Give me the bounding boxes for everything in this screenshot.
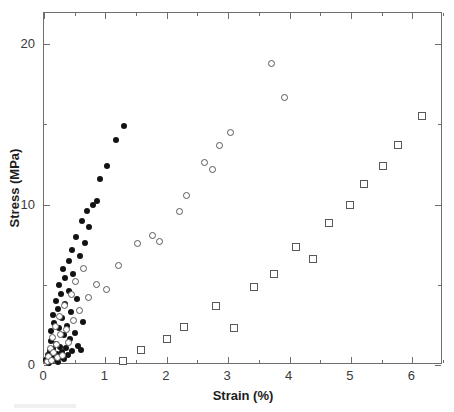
data-point-filled-circles — [66, 258, 72, 264]
y-axis-major-tick — [44, 205, 50, 206]
x-axis-top-minor-tick — [75, 13, 76, 16]
y-axis-right-major-tick — [435, 44, 441, 45]
data-point-filled-circles — [56, 282, 62, 288]
y-axis-right-major-tick — [435, 205, 441, 206]
y-axis-minor-tick — [44, 124, 47, 125]
data-point-filled-circles — [121, 123, 127, 129]
y-axis-tick-label: 10 — [21, 196, 35, 211]
x-axis-top-minor-tick — [320, 13, 321, 16]
x-axis-top-major-tick — [228, 13, 229, 19]
data-point-open-squares — [163, 335, 171, 343]
data-point-open-squares — [119, 357, 127, 365]
data-point-open-circles — [65, 339, 72, 346]
stress-strain-figure: 012345601020 Strain (%) Stress (MPa) — [0, 0, 454, 412]
x-axis-top-major-tick — [44, 13, 45, 19]
data-point-open-squares — [346, 201, 354, 209]
data-point-open-circles — [103, 286, 110, 293]
data-point-filled-circles — [94, 198, 100, 204]
data-point-filled-circles — [60, 266, 66, 272]
data-point-filled-circles — [79, 218, 85, 224]
y-axis-major-tick — [44, 44, 50, 45]
data-point-open-circles — [52, 323, 59, 330]
plot-area — [43, 12, 442, 364]
data-point-open-circles — [134, 240, 141, 247]
x-axis-minor-tick — [197, 360, 198, 363]
data-point-open-circles — [68, 291, 75, 298]
data-point-open-circles — [227, 129, 234, 136]
x-axis-major-tick — [167, 357, 168, 363]
x-axis-top-minor-tick — [382, 13, 383, 16]
data-point-open-squares — [360, 180, 368, 188]
x-axis-top-minor-tick — [443, 13, 444, 16]
data-point-open-circles — [70, 317, 77, 324]
x-axis-minor-tick — [443, 360, 444, 363]
data-point-filled-circles — [62, 275, 68, 281]
data-point-filled-circles — [78, 347, 84, 353]
data-point-open-circles — [281, 94, 288, 101]
data-point-open-circles — [115, 262, 122, 269]
data-point-open-circles — [61, 302, 68, 309]
x-axis-major-tick — [290, 357, 291, 363]
data-point-open-squares — [250, 283, 258, 291]
x-axis-top-minor-tick — [259, 13, 260, 16]
data-point-filled-circles — [50, 312, 56, 318]
y-axis-minor-tick — [44, 285, 47, 286]
data-point-open-squares — [180, 323, 188, 331]
scan-artifact — [14, 404, 76, 408]
data-point-open-squares — [137, 346, 145, 354]
x-axis-top-major-tick — [167, 13, 168, 19]
data-point-filled-circles — [86, 224, 92, 230]
x-axis-top-major-tick — [290, 13, 291, 19]
x-axis-top-minor-tick — [197, 13, 198, 16]
y-axis-right-minor-tick — [438, 124, 441, 125]
data-point-open-squares — [309, 255, 317, 263]
data-point-filled-circles — [68, 309, 74, 315]
data-point-open-circles — [176, 208, 183, 215]
data-point-filled-circles — [55, 306, 61, 312]
data-point-open-squares — [212, 302, 220, 310]
data-point-open-squares — [379, 162, 387, 170]
data-point-filled-circles — [113, 137, 119, 143]
data-point-open-circles — [72, 278, 79, 285]
x-axis-tick-label: 5 — [346, 368, 353, 383]
data-point-open-circles — [76, 307, 83, 314]
x-axis-tick-label: 3 — [224, 368, 231, 383]
x-axis-tick-label: 1 — [101, 368, 108, 383]
data-point-filled-circles — [72, 330, 78, 336]
x-axis-minor-tick — [320, 360, 321, 363]
data-point-open-squares — [418, 112, 426, 120]
y-axis-tick-label: 0 — [28, 357, 35, 372]
data-point-filled-circles — [97, 176, 103, 182]
data-point-filled-circles — [69, 348, 75, 354]
data-point-open-circles — [201, 159, 208, 166]
x-axis-top-major-tick — [412, 13, 413, 19]
data-point-filled-circles — [70, 271, 76, 277]
data-point-open-squares — [325, 219, 333, 227]
data-point-open-circles — [216, 142, 223, 149]
data-point-filled-circles — [69, 247, 75, 253]
y-axis-right-major-tick — [435, 365, 441, 366]
data-point-open-circles — [63, 326, 70, 333]
data-point-open-squares — [270, 270, 278, 278]
data-point-filled-circles — [84, 208, 90, 214]
x-axis-major-tick — [105, 357, 106, 363]
x-axis-major-tick — [412, 357, 413, 363]
x-axis-top-minor-tick — [136, 13, 137, 16]
data-point-open-circles — [209, 166, 216, 173]
x-axis-minor-tick — [75, 360, 76, 363]
data-point-open-circles — [59, 352, 66, 359]
data-point-filled-circles — [77, 253, 83, 259]
data-point-filled-circles — [53, 298, 59, 304]
x-axis-top-major-tick — [105, 13, 106, 19]
data-point-filled-circles — [82, 240, 88, 246]
x-axis-minor-tick — [136, 360, 137, 363]
data-point-open-squares — [394, 141, 402, 149]
x-axis-tick-label: 6 — [408, 368, 415, 383]
data-point-filled-circles — [104, 163, 110, 169]
y-axis-right-minor-tick — [438, 285, 441, 286]
data-point-open-circles — [85, 294, 92, 301]
data-point-open-circles — [80, 265, 87, 272]
y-axis-title: Stress (MPa) — [7, 149, 22, 228]
data-point-open-circles — [156, 238, 163, 245]
data-point-filled-circles — [73, 234, 79, 240]
